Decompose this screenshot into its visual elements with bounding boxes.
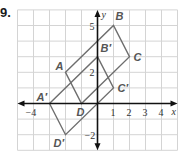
x-tick-label: 1 xyxy=(111,107,116,118)
vertex-label: C′ xyxy=(118,82,130,94)
vertex-label: D xyxy=(77,106,85,118)
y-axis-arrow-down-icon xyxy=(95,143,101,150)
y-axis-arrow-up-icon xyxy=(95,10,101,17)
vertex-label: A′ xyxy=(36,91,49,103)
x-axis-label: x xyxy=(171,106,177,117)
quadrilaterals xyxy=(50,26,130,135)
vertex-label: A xyxy=(55,60,64,72)
y-tick-label: 2 xyxy=(90,67,95,78)
y-tick-label: −2 xyxy=(85,130,96,141)
y-axis-label: y xyxy=(101,9,107,20)
y-tick-label: 5 xyxy=(90,21,95,32)
x-tick-label: 3 xyxy=(143,107,148,118)
vertex-label: B xyxy=(116,10,124,22)
vertex-label: D′ xyxy=(54,137,66,149)
vertex-label: C xyxy=(134,51,143,63)
axes: xy−4123452−2 xyxy=(18,9,178,150)
x-axis-arrow-left-icon xyxy=(18,101,25,107)
vertex-label: B′ xyxy=(101,42,113,54)
x-tick-label: 2 xyxy=(127,107,132,118)
problem-number: 9. xyxy=(0,5,11,20)
x-tick-label: 4 xyxy=(159,107,164,118)
x-tick-label: −4 xyxy=(26,107,37,118)
coordinate-graph: 9. xy−4123452−2 ABCDA′B′C′D′ xyxy=(0,0,185,153)
